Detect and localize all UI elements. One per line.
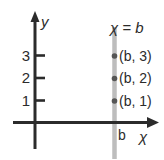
figure-canvas: y χ 3 2 1 χ = b (b, 3) (b, 2) (b, 1) b [0,0,164,160]
data-point-b-2 [112,76,118,82]
data-point-b-3 [112,53,118,59]
y-axis-label: y [41,14,49,29]
x-axis-label: χ [139,129,147,144]
y-tick-label-1: 1 [12,93,30,108]
x-intercept-label-b: b [118,128,126,142]
point-label-b-1: (b, 1) [119,94,152,108]
x-axis-arrowhead [147,117,159,128]
point-label-b-3: (b, 3) [119,49,152,63]
data-point-b-1 [112,98,118,104]
vertical-line-equation-label: χ = b [110,20,144,35]
y-tick-label-2: 2 [12,70,30,85]
point-label-b-2: (b, 2) [119,71,152,85]
y-tick-label-3: 3 [12,48,30,63]
y-axis-arrowhead [31,11,40,22]
